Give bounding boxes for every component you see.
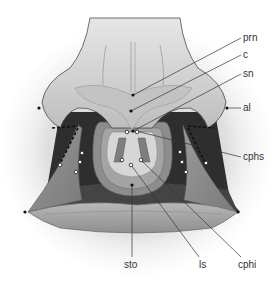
marker-ch-right: [236, 210, 239, 213]
marker-cphi-left: [120, 158, 124, 162]
marker-c: [129, 109, 132, 112]
nose: [42, 18, 226, 130]
anatomy-diagram: prn c sn al cphs sto ls cphi: [0, 0, 275, 287]
marker-sn: [131, 129, 134, 132]
label-al: al: [243, 102, 251, 113]
marker-sto: [130, 183, 133, 186]
marker-cphs-left: [125, 130, 129, 134]
marker-al-left: [37, 106, 40, 109]
label-cphs: cphs: [243, 151, 264, 162]
label-sn: sn: [243, 68, 254, 79]
marker-prn: [131, 93, 134, 96]
marker-ch-left: [23, 210, 26, 213]
label-prn: prn: [243, 32, 257, 43]
marker-al-right: [225, 106, 228, 109]
marker-cphi-right: [139, 158, 143, 162]
label-c: c: [243, 49, 248, 60]
marker-ls: [129, 163, 133, 167]
label-sto: sto: [124, 259, 138, 270]
marker-cphs-right: [135, 130, 139, 134]
label-cphi: cphi: [238, 259, 256, 270]
label-ls: ls: [199, 259, 206, 270]
